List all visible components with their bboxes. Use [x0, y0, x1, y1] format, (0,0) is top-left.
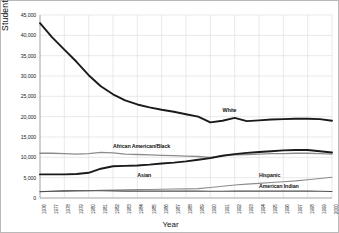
series-label-american-indian: American Indian — [259, 183, 299, 189]
y-tick-label: 15,000 — [8, 134, 36, 140]
plot-area — [1, 1, 339, 233]
x-tick-label: 1983 — [127, 204, 132, 214]
y-tick-label: 40,000 — [8, 32, 36, 38]
x-tick-label: 1987 — [176, 204, 181, 214]
gridlines — [40, 15, 332, 198]
x-tick-label: 1990 — [212, 204, 217, 214]
series-label-african-american-black: African American/Black — [113, 143, 170, 149]
x-tick-label: 1980 — [91, 204, 96, 214]
chart-container: Student Enrollment Year 05,00010,00015,0… — [0, 0, 339, 233]
x-tick-label: 1994 — [261, 204, 266, 214]
x-tick-label: 1991 — [225, 204, 230, 214]
x-tick-label: 1986 — [164, 204, 169, 214]
series-label-hispanic: Hispanic — [259, 172, 280, 178]
x-tick-label: 1999 — [322, 204, 327, 214]
x-tick-label: 1988 — [188, 204, 193, 214]
x-tick-label: 1992 — [237, 204, 242, 214]
y-tick-label: 5,000 — [8, 175, 36, 181]
x-tick-label: 1996 — [285, 204, 290, 214]
x-tick-label: 1989 — [200, 204, 205, 214]
x-tick-label: 1993 — [249, 204, 254, 214]
x-tick-label: 1978 — [66, 204, 71, 214]
y-tick-label: 10,000 — [8, 154, 36, 160]
series-label-white: White — [223, 107, 237, 113]
x-tick-label: 1976 — [42, 204, 47, 214]
x-tick-label: 1981 — [103, 204, 108, 214]
y-tick-label: 20,000 — [8, 114, 36, 120]
x-tick-label: 1979 — [79, 204, 84, 214]
x-tick-label: 1985 — [152, 204, 157, 214]
x-tick-label: 2000 — [334, 204, 339, 214]
y-tick-label: 35,000 — [8, 53, 36, 59]
series-label-asian: Asian — [137, 172, 151, 178]
x-tick-label: 1977 — [54, 204, 59, 214]
x-tick-label: 1984 — [139, 204, 144, 214]
x-tick-label: 1982 — [115, 204, 120, 214]
y-tick-label: 45,000 — [8, 12, 36, 18]
x-tick-label: 1997 — [298, 204, 303, 214]
y-tick-label: 0 — [8, 195, 36, 201]
x-tick-label: 1998 — [310, 204, 315, 214]
y-tick-label: 30,000 — [8, 73, 36, 79]
x-tick-label: 1995 — [273, 204, 278, 214]
y-tick-label: 25,000 — [8, 93, 36, 99]
